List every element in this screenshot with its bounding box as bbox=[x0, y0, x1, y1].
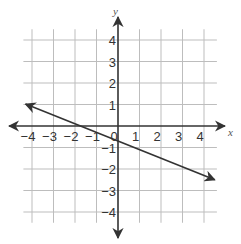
y-tick-label: 1 bbox=[109, 98, 116, 113]
x-tick-label: 4 bbox=[196, 129, 203, 144]
y-tick-label: −2 bbox=[101, 162, 116, 177]
x-tick-label: −2 bbox=[64, 129, 79, 144]
y-axis-label: y bbox=[112, 5, 118, 17]
x-tick-label: 1 bbox=[132, 129, 139, 144]
y-tick-label: 2 bbox=[109, 76, 116, 91]
x-tick-label: 2 bbox=[153, 129, 160, 144]
y-tick-label: −1 bbox=[101, 141, 116, 156]
y-tick-label: 4 bbox=[109, 33, 116, 48]
axes bbox=[9, 17, 225, 238]
x-tick-label: −3 bbox=[42, 129, 57, 144]
y-tick-label: 3 bbox=[109, 55, 116, 70]
coordinate-plane: −4−3−2−101234−4−3−2−11234 x y bbox=[0, 0, 241, 244]
x-axis-label: x bbox=[227, 126, 233, 138]
y-tick-label: −4 bbox=[101, 205, 116, 220]
x-tick-label: −4 bbox=[21, 129, 36, 144]
x-tick-label: 3 bbox=[175, 129, 182, 144]
y-tick-label: −3 bbox=[101, 184, 116, 199]
